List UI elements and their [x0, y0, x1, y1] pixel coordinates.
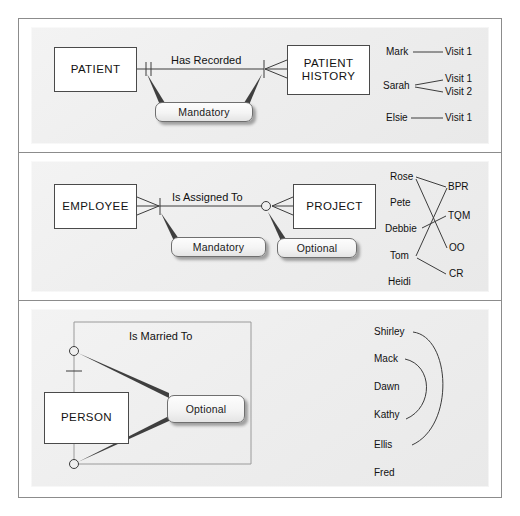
legend-item-right: CR [449, 268, 463, 279]
legend-item-left: Heidi [388, 276, 411, 287]
legend-item-left: Debbie [385, 223, 417, 234]
legend-item-left: Elsie [386, 112, 408, 123]
legend-item-left: Dawn [374, 381, 400, 392]
legend-item-left: Shirley [374, 326, 405, 337]
panel-1-legend-lines [19, 19, 501, 153]
callout-label: Mandatory [178, 106, 229, 118]
legend-item-left: Kathy [374, 409, 400, 420]
legend-item-left: Rose [390, 171, 413, 182]
panel-mandatory-one-to-many: PATIENT PATIENT HISTORY Has Recorded Man… [19, 19, 501, 153]
callout-optional: Optional [277, 238, 357, 258]
callout-label: Optional [186, 403, 227, 415]
legend-item-right: BPR [448, 181, 469, 192]
panel-3-legend-lines [19, 301, 501, 497]
legend-item-right: OO [449, 242, 465, 253]
callout-label: Optional [297, 242, 338, 254]
callout-optional: Optional [167, 395, 245, 423]
callout-mandatory: Mandatory [155, 102, 253, 122]
callout-label: Mandatory [193, 241, 244, 253]
callout-mandatory: Mandatory [171, 237, 266, 257]
er-diagram-figure: PATIENT PATIENT HISTORY Has Recorded Man… [18, 18, 502, 498]
legend-item-left: Mark [386, 46, 408, 57]
panel-2-legend-lines [19, 153, 501, 301]
legend-item-left: Sarah [383, 80, 410, 91]
legend-item-left: Pete [390, 197, 411, 208]
legend-item-right: TQM [448, 210, 470, 221]
panel-many-to-many: EMPLOYEE PROJECT Is Assigned To Mandator… [19, 153, 501, 301]
legend-item-right: Visit 1 [445, 73, 472, 84]
panel-recursive-optional: PERSON Is Married To Optional Shirley Ma… [19, 301, 501, 497]
legend-item-left: Mack [374, 353, 398, 364]
legend-item-left: Fred [374, 467, 395, 478]
legend-item-left: Ellis [374, 439, 392, 450]
legend-item-right: Visit 1 [445, 46, 472, 57]
legend-item-right: Visit 2 [445, 86, 472, 97]
legend-item-left: Tom [390, 250, 409, 261]
legend-item-right: Visit 1 [445, 112, 472, 123]
